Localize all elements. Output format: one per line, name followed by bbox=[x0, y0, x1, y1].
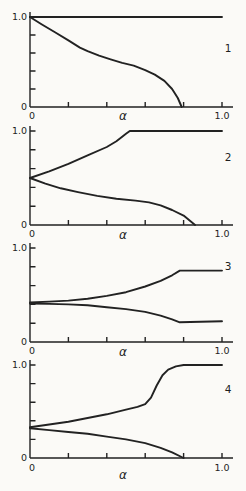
y-axis-max-label: 1.0 bbox=[2, 359, 27, 370]
chart-panel-1: 1.0 0 0 1.0 α 1 bbox=[0, 0, 246, 123]
y-axis-min-label: 0 bbox=[2, 336, 27, 347]
chart-panel-4: 1.0 0 0 1.0 α 4 bbox=[0, 357, 246, 491]
x-axis-max-label: 1.0 bbox=[211, 110, 233, 121]
chart-panel-2: 1.0 0 0 1.0 α 2 bbox=[0, 123, 246, 240]
y-axis-max-label: 1.0 bbox=[2, 11, 27, 22]
y-axis-max-label: 1.0 bbox=[2, 125, 27, 136]
x-axis-max-label: 1.0 bbox=[211, 345, 233, 356]
x-axis-max-label: 1.0 bbox=[211, 228, 233, 239]
x-axis-max-label: 1.0 bbox=[211, 462, 233, 473]
panel-number-label: 1 bbox=[220, 42, 236, 54]
y-axis-max-label: 1.0 bbox=[2, 242, 27, 253]
four-panel-line-figure: 1.0 0 0 1.0 α 1 1.0 0 0 1.0 α 2 1.0 0 0 … bbox=[0, 0, 246, 491]
y-axis-min-label: 0 bbox=[2, 219, 27, 230]
x-axis-min-label: 0 bbox=[25, 228, 39, 239]
x-axis-title-alpha: α bbox=[112, 109, 134, 123]
x-axis-min-label: 0 bbox=[25, 110, 39, 121]
chart-panel-3: 1.0 0 0 1.0 α 3 bbox=[0, 240, 246, 357]
panel-number-label: 3 bbox=[220, 260, 236, 272]
x-axis-min-label: 0 bbox=[25, 462, 39, 473]
y-axis-min-label: 0 bbox=[2, 101, 27, 112]
y-axis-min-label: 0 bbox=[2, 452, 27, 463]
panel-number-label: 4 bbox=[220, 383, 236, 395]
x-axis-title-alpha: α bbox=[112, 468, 134, 482]
x-axis-min-label: 0 bbox=[25, 345, 39, 356]
panel-number-label: 2 bbox=[220, 151, 236, 163]
